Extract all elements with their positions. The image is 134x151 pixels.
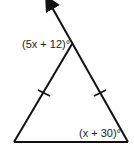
extended-ray <box>49 2 128 142</box>
apex-angle-label: (5x + 12)° <box>22 39 70 50</box>
base-angle-label: (x + 30)° <box>79 128 121 139</box>
